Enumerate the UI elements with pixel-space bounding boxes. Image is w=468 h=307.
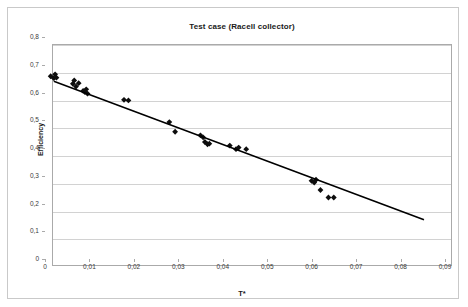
x-tick-mark (401, 259, 402, 262)
y-tick-label: 0,4 (5, 144, 39, 151)
gridline-horizontal (53, 45, 451, 46)
chart-frame: Test case (Racell collector) Efficiency … (7, 7, 459, 299)
y-tick-mark (42, 204, 45, 205)
x-tick-mark (89, 259, 90, 262)
y-axis-title: Efficiency (37, 100, 44, 180)
x-tick-mark (45, 259, 46, 262)
y-tick-label: 0,2 (5, 200, 39, 207)
x-tick-label: 0,02 (114, 263, 154, 270)
x-tick-mark (178, 259, 179, 262)
y-tick-label: 0,8 (5, 33, 39, 40)
y-tick-label: 0,1 (5, 227, 39, 234)
y-tick-label: 0,6 (5, 89, 39, 96)
x-tick-label: 0,01 (69, 263, 109, 270)
plot-area (52, 44, 452, 266)
y-tick-mark (42, 65, 45, 66)
gridline-horizontal (53, 156, 451, 157)
x-tick-mark (445, 259, 446, 262)
y-tick-mark (42, 176, 45, 177)
gridline-horizontal (53, 128, 451, 129)
x-tick-label: 0,07 (336, 263, 376, 270)
x-tick-mark (312, 259, 313, 262)
x-axis-title: T* (8, 289, 468, 298)
x-tick-mark (134, 259, 135, 262)
y-tick-mark (42, 37, 45, 38)
x-tick-label: 0 (25, 263, 65, 270)
x-tick-label: 0,08 (381, 263, 421, 270)
y-tick-mark (42, 120, 45, 121)
y-tick-mark (42, 148, 45, 149)
gridline-horizontal (53, 101, 451, 102)
x-tick-mark (267, 259, 268, 262)
y-tick-mark (42, 231, 45, 232)
gridline-horizontal (53, 239, 451, 240)
x-tick-label: 0,09 (425, 263, 465, 270)
x-tick-mark (356, 259, 357, 262)
y-tick-label: 0,5 (5, 116, 39, 123)
x-tick-label: 0,03 (158, 263, 198, 270)
y-tick-label: 0 (5, 255, 39, 262)
page-title: Test case (Racell collector) (8, 22, 468, 31)
y-tick-label: 0,3 (5, 172, 39, 179)
gridline-horizontal (53, 212, 451, 213)
y-tick-label: 0,7 (5, 61, 39, 68)
x-tick-label: 0,05 (247, 263, 287, 270)
x-tick-label: 0,06 (292, 263, 332, 270)
gridline-horizontal (53, 73, 451, 74)
y-tick-mark (42, 93, 45, 94)
x-tick-mark (223, 259, 224, 262)
x-tick-label: 0,04 (203, 263, 243, 270)
gridline-horizontal (53, 184, 451, 185)
